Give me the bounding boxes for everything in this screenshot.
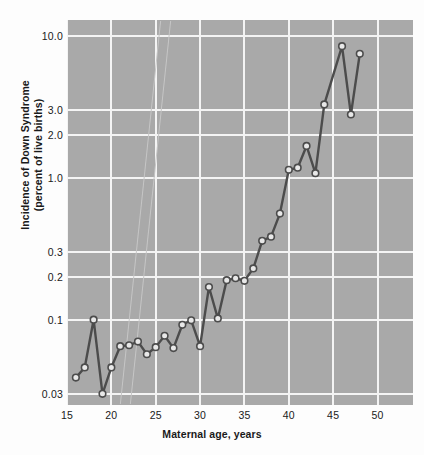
data-point [161,332,168,339]
y-tick-label: 3.0 [5,104,63,116]
data-point [144,351,151,358]
plot-area [67,20,413,405]
data-point [117,343,124,350]
data-point [348,111,355,118]
data-point [303,143,310,150]
x-tick-label: 15 [47,409,87,421]
series-line [76,46,360,394]
data-point [294,164,301,171]
data-point [152,344,159,351]
series-markers [73,43,364,397]
data-point [277,210,284,217]
data-point [250,265,257,272]
data-point [223,277,230,284]
y-tick-label: 2.0 [5,129,63,141]
y-tick-label: 0.2 [5,271,63,283]
data-point [179,321,186,328]
y-tick-label: 0.3 [5,246,63,258]
y-tick-label: 0.1 [5,314,63,326]
data-point [285,167,292,174]
x-tick-label: 20 [91,409,131,421]
y-axis-tick-labels: 0.030.10.20.31.02.03.010.0 [0,20,63,405]
x-axis-title: Maternal age, years [0,428,424,440]
data-series [67,20,413,405]
data-point [268,233,275,240]
data-point [90,316,97,323]
data-point [126,342,133,349]
data-point [99,390,106,397]
x-tick-label: 50 [358,409,398,421]
data-point [321,101,328,108]
y-tick-label: 10.0 [5,30,63,42]
x-tick-label: 40 [269,409,309,421]
data-point [312,170,319,177]
data-point [197,343,204,350]
x-tick-label: 30 [180,409,220,421]
data-point [188,317,195,324]
data-point [259,238,266,245]
data-point [339,43,346,50]
data-point [108,364,115,371]
x-tick-label: 35 [224,409,264,421]
data-point [81,364,88,371]
chart-figure: Incidence of Down Syndrome (percent of l… [0,0,424,455]
data-point [232,275,239,282]
data-point [241,277,248,284]
data-point [73,374,80,381]
x-axis-tick-labels: 1520253035404550 [67,409,413,427]
data-point [170,345,177,352]
data-point [135,338,142,345]
x-tick-label: 45 [313,409,353,421]
x-tick-label: 25 [136,409,176,421]
data-point [215,315,222,322]
y-tick-label: 1.0 [5,172,63,184]
data-point [206,284,213,291]
y-tick-label: 0.03 [5,388,63,400]
data-point [356,51,363,58]
